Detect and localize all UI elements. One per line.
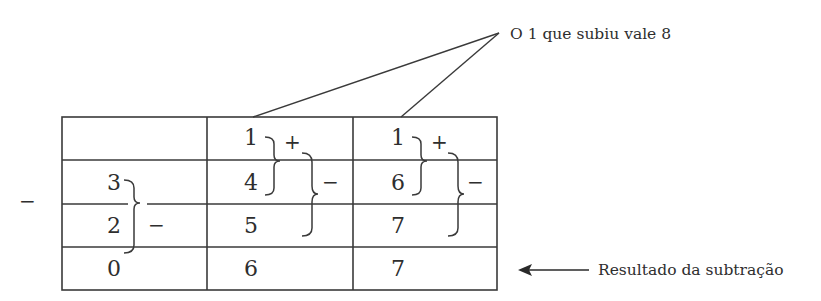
cell-r2-c0: 2 (107, 215, 121, 237)
col2-minus-sign: − (322, 172, 339, 192)
brace-col2-plus (265, 137, 280, 195)
cell-r3-c2: 7 (391, 258, 405, 280)
brace-col3-plus (412, 137, 427, 195)
diagram-lines (0, 0, 821, 301)
cell-r1-c1: 4 (244, 172, 258, 194)
outer-minus-sign: − (19, 191, 36, 211)
cell-r3-c1: 6 (244, 258, 258, 280)
col1-minus-sign: − (148, 215, 165, 235)
brace-col1 (124, 180, 140, 253)
cell-r0-c2: 1 (391, 127, 405, 149)
cell-r3-c0: 0 (107, 258, 121, 280)
brace-col3-minus (448, 153, 464, 236)
top-annotation-label: O 1 que subiu vale 8 (510, 25, 671, 43)
cell-r1-c0: 3 (107, 172, 121, 194)
callout-line-col3 (401, 33, 499, 117)
col3-minus-sign: − (467, 172, 484, 192)
cell-r2-c2: 7 (391, 215, 405, 237)
brace-col2-minus (302, 153, 318, 236)
col2-plus-sign: + (284, 132, 301, 152)
result-annotation-label: Resultado da subtração (598, 261, 783, 279)
cell-r2-c1: 5 (244, 215, 258, 237)
cell-r1-c2: 6 (391, 172, 405, 194)
callout-line-col2 (253, 33, 499, 117)
col3-plus-sign: + (431, 132, 448, 152)
cell-r0-c1: 1 (244, 127, 258, 149)
